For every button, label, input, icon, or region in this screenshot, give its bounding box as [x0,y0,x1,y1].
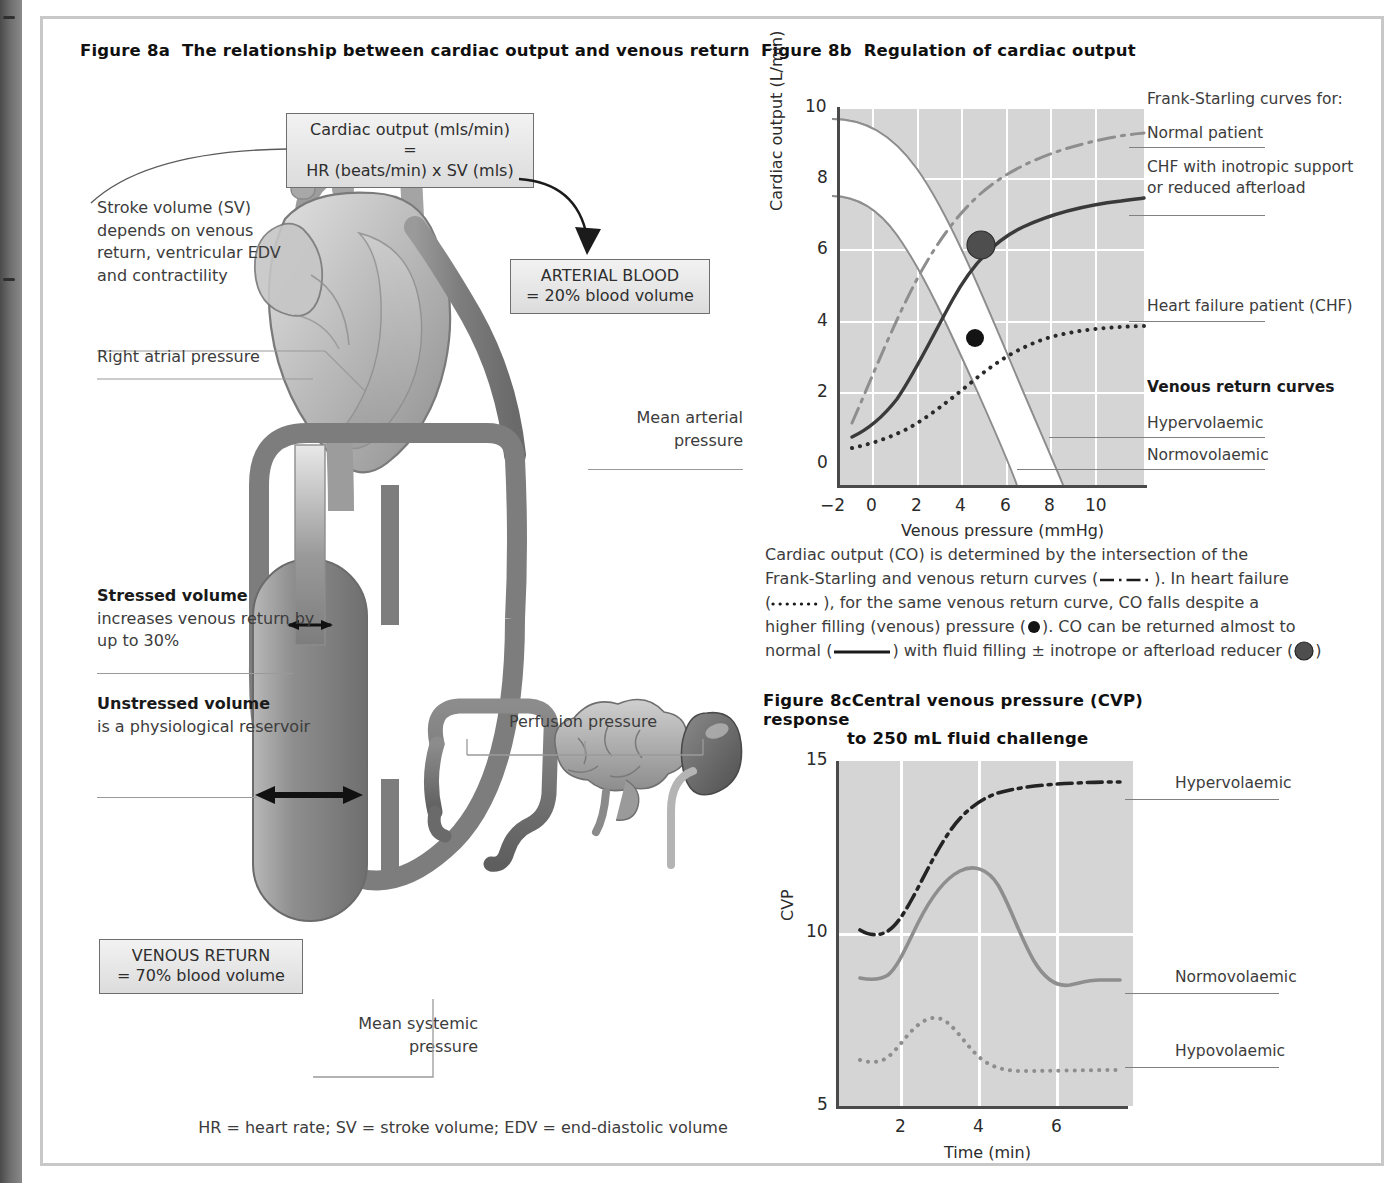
curve-8c-hypovolaemic [860,1018,1120,1071]
y-axis-label-8b: Cardiac output (L/min) [767,31,786,211]
mean-arterial-pressure-label: Mean arterial pressure [588,407,743,452]
right-atrial-pressure-label: Right atrial pressure [97,346,317,369]
ytick-8b-10: 10 [805,96,827,116]
unstressed-volume-body: is a physiological reservoir [97,716,327,739]
curve-8c-normovolaemic [860,868,1120,985]
caption-8b-line5: normal () with fluid filling ± inotrope … [765,639,1365,663]
xtick-8b-8: 8 [1044,495,1055,515]
figure-8a-label: Figure 8a [80,41,170,60]
legend-chf-supported: CHF with inotropic support or reduced af… [1147,157,1377,199]
figure-8a-title-text: The relationship between cardiac output … [182,41,750,60]
cardiac-output-box: Cardiac output (mls/min) = HR (beats/min… [286,113,534,188]
xtick-8b-4: 4 [955,495,966,515]
xtick-8c-6: 6 [1051,1116,1062,1136]
co-line2: = [295,140,525,160]
legend-8c-normovolaemic-leader [1125,993,1279,994]
legend-normovolaemic-8b: Normovolaemic [1147,445,1269,466]
figure-8b-title-text: Regulation of cardiac output [864,41,1136,60]
caption-8b-line1: Cardiac output (CO) is determined by the… [765,543,1365,567]
legend-normal-leader [1129,147,1265,148]
ytick-8c-15: 15 [806,749,828,769]
page-binding-strip [0,0,22,1183]
figure-8a: Figure 8aThe relationship between cardia… [43,19,743,1163]
legend-8c-hypovolaemic-leader [1125,1067,1279,1068]
caption-8b-line5a: normal ( [765,641,832,660]
perfusion-pressure-bracket [463,735,713,761]
caption-8b-line5d: inotrope or afterload reducer ( [1045,641,1293,660]
legend-8c-hypervolaemic-leader [1125,799,1279,800]
stressed-volume-callout: Stressed volume increases venous return … [97,585,327,653]
legend-vr-heading: Venous return curves [1147,377,1334,398]
legend-8c-hypovolaemic: Hypovolaemic [1175,1042,1285,1060]
y-axis-label-8c: CVP [778,889,797,921]
xtick-8b-10: 10 [1085,495,1107,515]
dash-dot-sample-icon [1098,575,1154,585]
ytick-8c-5: 5 [817,1094,828,1114]
figure-8a-title: Figure 8aThe relationship between cardia… [80,41,750,60]
ytick-8b-6: 6 [817,238,828,258]
cobox-to-arterial-arrow [513,169,643,269]
unstressed-volume-callout: Unstressed volume is a physiological res… [97,693,327,738]
legend-chf-supported-leader [1129,215,1265,216]
perfusion-pressure-label: Perfusion pressure [483,711,683,734]
caption-8b-line4a: higher filling (venous) pressure ( [765,617,1026,636]
curve-8c-hypervolaemic [860,782,1120,935]
unstressed-volume-leader [97,797,257,798]
stressed-volume-leader [97,673,293,674]
x-axis-8c [836,1106,1128,1109]
legend-normal-patient: Normal patient [1147,123,1263,144]
figure-8b-caption: Cardiac output (CO) is determined by the… [765,543,1365,663]
ytick-8b-0: 0 [817,452,828,472]
plot-8b-curves [839,107,1144,485]
arterial-line1: ARTERIAL BLOOD [519,266,701,286]
solid-sample-icon [832,647,892,657]
caption-8b-line2a: Frank-Starling and venous return curves … [765,569,1098,588]
y-axis-8b [837,107,840,487]
x-axis-label-8c: Time (min) [944,1143,1031,1162]
stressed-volume-heading: Stressed volume [97,585,327,608]
page: Figure 8aThe relationship between cardia… [22,0,1398,1183]
caption-8b-line5b: ) with fluid filling [892,641,1031,660]
legend-chf-leader [1129,321,1265,322]
figure-8b-title: Figure 8bRegulation of cardiac output [761,41,1136,60]
xtick-8c-4: 4 [973,1116,984,1136]
venous-return-box: VENOUS RETURN = 70% blood volume [99,939,303,994]
legend-chf-supported-l2: or reduced afterload [1147,179,1306,197]
co-line3: HR (beats/min) x SV (mls) [295,161,525,181]
xtick-8b-0: 0 [866,495,877,515]
xtick-8b-2: 2 [911,495,922,515]
caption-8b-line3b: ), for the same venous return curve, CO … [823,593,1259,612]
legend-chf: Heart failure patient (CHF) [1147,296,1353,317]
xtick-8b-6: 6 [1000,495,1011,515]
stressed-volume-body: increases venous return by up to 30% [97,608,327,653]
msp-leader [305,995,505,1083]
xtick-8b-m2: −2 [820,495,845,515]
ytick-8b-2: 2 [817,381,828,401]
x-axis-label-8b: Venous pressure (mmHg) [901,521,1104,540]
legend-8c-normovolaemic: Normovolaemic [1175,968,1297,986]
caption-8b-line4b: ). CO can be returned almost to [1042,617,1296,636]
co-line1: Cardiac output (mls/min) [295,120,525,140]
large-dot-sample-icon [1293,641,1315,661]
caption-8b-line5e: ) [1315,641,1321,660]
figure-8c-title-l2: to 250 mL fluid challenge [847,729,1193,748]
legend-hypervolaemic-leader-8b [1049,437,1265,438]
legend-chf-supported-l1: CHF with inotropic support [1147,158,1353,176]
venous-reservoir [253,445,367,921]
legend-8c-hypervolaemic: Hypervolaemic [1175,774,1292,792]
caption-8b-line2b: ). In heart failure [1154,569,1289,588]
venous-line1: VENOUS RETURN [108,946,294,966]
arterial-line2: = 20% blood volume [519,286,701,306]
dot-supported-intersection [967,231,995,259]
ytick-8b-4: 4 [817,310,828,330]
legend-normovolaemic-leader-8b [1017,469,1265,470]
plot-8c-curves [838,761,1133,1106]
legend-heading-frank-starling: Frank-Starling curves for: [1147,89,1343,110]
ytick-8c-10: 10 [806,921,828,941]
plusminus-symbol: ± [1031,641,1044,660]
legend-hypervolaemic-8b: Hypervolaemic [1147,413,1264,434]
figure-8c-label: Figure 8c [763,691,852,710]
caption-8b-line3: (), for the same venous return curve, CO… [765,591,1365,615]
x-axis-8b [837,485,1147,488]
dotted-sample-icon [771,599,823,609]
